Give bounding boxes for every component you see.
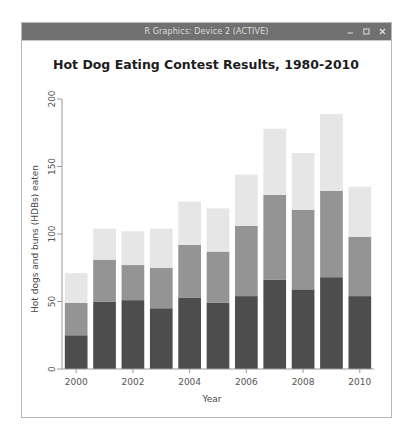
bar-segment (207, 252, 230, 303)
bar-segment (235, 296, 258, 369)
r-graphics-window: R Graphics: Device 2 (ACTIVE) Hot Dog Ea… (21, 22, 392, 418)
bar-segment (65, 273, 88, 303)
x-tick-label: 2002 (121, 377, 144, 387)
bar-segment (292, 153, 315, 210)
close-icon[interactable] (378, 27, 387, 36)
x-axis-title: Year (201, 394, 221, 404)
bar-segment (122, 300, 145, 369)
stacked-bar-chart: Hot Dog Eating Contest Results, 1980-201… (22, 41, 391, 417)
bar-segment (348, 296, 371, 369)
bar-segment (178, 202, 201, 245)
y-axis-title: Hot dogs and buns (HDBs) eaten (30, 165, 40, 313)
bar-segment (93, 302, 116, 370)
bar-segment (65, 335, 88, 369)
bar-segment (65, 303, 88, 335)
y-tick-label: 0 (47, 366, 57, 372)
y-axis: 050100150200 (47, 90, 63, 372)
window-titlebar[interactable]: R Graphics: Device 2 (ACTIVE) (22, 23, 391, 40)
y-tick-label: 50 (47, 296, 57, 308)
y-tick-label: 150 (47, 158, 57, 175)
chart-title: Hot Dog Eating Contest Results, 1980-201… (53, 57, 359, 72)
bar-segment (263, 129, 286, 195)
bar-segment (207, 208, 230, 251)
bar-segment (235, 175, 258, 226)
bar-segment (150, 268, 173, 309)
x-axis: 200020022004200620082010 (62, 369, 374, 387)
bar-segment (292, 289, 315, 369)
x-tick-label: 2000 (65, 377, 88, 387)
maximize-icon[interactable] (362, 27, 371, 36)
bar-segment (320, 191, 343, 277)
bar-segment (292, 210, 315, 290)
bar-segment (320, 277, 343, 369)
x-tick-label: 2008 (292, 377, 315, 387)
bar-segment (178, 245, 201, 298)
bar-segment (150, 308, 173, 369)
x-tick-label: 2006 (235, 377, 258, 387)
minimize-icon[interactable] (346, 27, 355, 36)
bar-segment (122, 231, 145, 265)
y-tick-label: 100 (47, 225, 57, 242)
bar-segment (348, 237, 371, 296)
bar-segment (263, 280, 286, 369)
bar-segment (263, 195, 286, 280)
bar-segment (207, 303, 230, 369)
y-tick-label: 200 (47, 90, 57, 107)
window-controls (346, 23, 387, 40)
bar-segment (178, 297, 201, 369)
bar-segment (235, 226, 258, 296)
bar-segment (320, 114, 343, 191)
graphics-canvas: Hot Dog Eating Contest Results, 1980-201… (22, 40, 391, 417)
bar-segment (122, 265, 145, 300)
bar-segment (93, 260, 116, 302)
x-tick-label: 2010 (348, 377, 371, 387)
screenshot-root: R Graphics: Device 2 (ACTIVE) Hot Dog Ea… (0, 0, 415, 443)
bar-segment (93, 229, 116, 260)
x-tick-label: 2004 (178, 377, 201, 387)
bar-segment (150, 229, 173, 268)
bars-group (65, 114, 371, 369)
window-title: R Graphics: Device 2 (ACTIVE) (144, 27, 268, 36)
bar-segment (348, 187, 371, 237)
